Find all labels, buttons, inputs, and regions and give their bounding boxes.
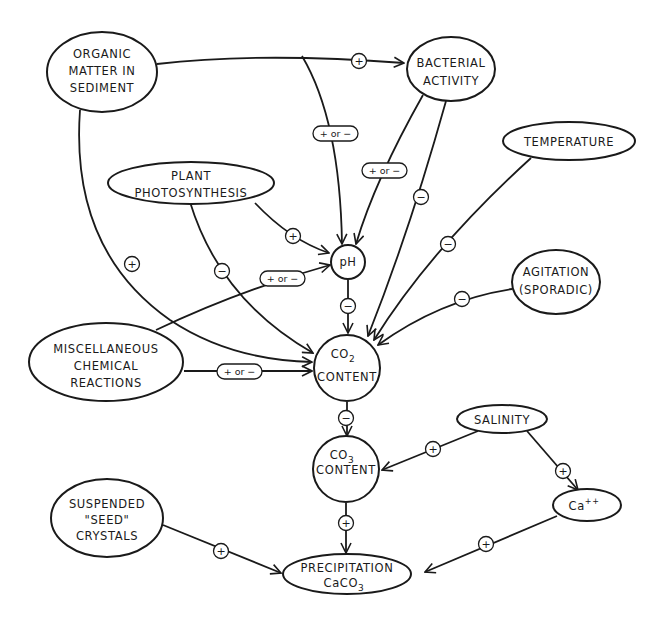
svg-text:+: + bbox=[558, 465, 567, 478]
sign-misc-ph: + or − bbox=[260, 271, 305, 286]
svg-text:CONTENT: CONTENT bbox=[316, 463, 376, 477]
sign-seed-precip: + bbox=[214, 544, 229, 559]
edge-salinity-to-ca bbox=[527, 431, 578, 490]
svg-text:+: + bbox=[288, 230, 297, 243]
svg-text:+ or −: + or − bbox=[320, 128, 352, 139]
sign-co2-co3: − bbox=[339, 411, 354, 426]
nodes: ORGANIC MATTER IN SEDIMENT BACTERIAL ACT… bbox=[29, 32, 635, 594]
sign-organic-co2: + bbox=[125, 257, 140, 272]
svg-text:CRYSTALS: CRYSTALS bbox=[76, 529, 138, 543]
sign-salinity-co3: + bbox=[426, 442, 441, 457]
svg-text:CHEMICAL: CHEMICAL bbox=[74, 359, 138, 373]
svg-text:PHOTOSYNTHESIS: PHOTOSYNTHESIS bbox=[135, 186, 248, 200]
node-bacterial-activity: BACTERIAL ACTIVITY bbox=[407, 37, 495, 101]
svg-text:AGITATION: AGITATION bbox=[523, 265, 590, 279]
svg-text:−: − bbox=[416, 191, 425, 204]
edge-organic-to-ph bbox=[302, 56, 342, 244]
sign-misc-co2: + or − bbox=[217, 364, 262, 379]
sign-plant-co2: − bbox=[215, 264, 230, 279]
sign-co3-precip: + bbox=[339, 516, 354, 531]
svg-text:+: + bbox=[428, 443, 437, 456]
svg-text:CONTENT: CONTENT bbox=[317, 370, 377, 384]
sign-bacterial-co2: − bbox=[414, 190, 429, 205]
svg-text:+: + bbox=[481, 538, 490, 551]
node-plant-photosynthesis: PLANT PHOTOSYNTHESIS bbox=[108, 162, 274, 204]
svg-text:(SPORADIC): (SPORADIC) bbox=[519, 283, 593, 297]
svg-text:REACTIONS: REACTIONS bbox=[70, 376, 142, 390]
node-co3-content: CO3 CONTENT bbox=[313, 436, 379, 502]
node-co2-content: CO2 CONTENT bbox=[314, 335, 380, 401]
node-temperature: TEMPERATURE bbox=[503, 122, 635, 160]
svg-text:−: − bbox=[457, 293, 466, 306]
svg-text:−: − bbox=[443, 238, 452, 251]
svg-text:+: + bbox=[127, 258, 136, 271]
svg-text:−: − bbox=[341, 412, 350, 425]
causal-diagram: + + − − − + − − bbox=[0, 0, 668, 623]
edge-agitation-to-co2 bbox=[378, 289, 512, 345]
sign-bacterial-ph: + or − bbox=[362, 163, 407, 178]
svg-text:SEDIMENT: SEDIMENT bbox=[70, 81, 135, 95]
svg-text:MATTER IN: MATTER IN bbox=[68, 64, 135, 78]
svg-text:−: − bbox=[217, 265, 226, 278]
node-precipitation: PRECIPITATION CaCO3 bbox=[283, 554, 411, 594]
sign-organic-bacterial: + bbox=[352, 54, 367, 69]
edge-bacterial-to-co2 bbox=[368, 101, 446, 336]
svg-text:PRECIPITATION: PRECIPITATION bbox=[301, 561, 394, 575]
node-agitation: AGITATION (SPORADIC) bbox=[512, 250, 600, 314]
sign-plant-ph: + bbox=[286, 229, 301, 244]
sign-organic-ph: + or − bbox=[313, 126, 358, 141]
node-salinity: SALINITY bbox=[457, 405, 547, 433]
svg-text:ACTIVITY: ACTIVITY bbox=[423, 74, 480, 88]
svg-text:+: + bbox=[216, 545, 225, 558]
svg-text:SUSPENDED: SUSPENDED bbox=[69, 497, 145, 511]
node-organic-matter: ORGANIC MATTER IN SEDIMENT bbox=[47, 32, 157, 112]
sign-agitation-co2: − bbox=[455, 292, 470, 307]
node-ph: pH bbox=[331, 245, 365, 279]
sign-temperature-co2: − bbox=[441, 237, 456, 252]
node-calcium: Ca++ bbox=[553, 489, 621, 521]
svg-text:TEMPERATURE: TEMPERATURE bbox=[523, 135, 614, 149]
svg-text:"SEED": "SEED" bbox=[85, 513, 130, 527]
svg-text:−: − bbox=[343, 300, 352, 313]
svg-text:pH: pH bbox=[339, 255, 356, 269]
sign-ph-co2: − bbox=[341, 299, 356, 314]
svg-text:SALINITY: SALINITY bbox=[474, 413, 530, 427]
svg-text:MISCELLANEOUS: MISCELLANEOUS bbox=[53, 342, 158, 356]
svg-text:ORGANIC: ORGANIC bbox=[73, 47, 131, 61]
svg-text:+: + bbox=[354, 55, 363, 68]
svg-text:+ or −: + or − bbox=[224, 366, 256, 377]
svg-text:+: + bbox=[341, 517, 350, 530]
svg-text:+ or −: + or − bbox=[369, 165, 401, 176]
sign-ca-precip: + bbox=[479, 537, 494, 552]
node-seed-crystals: SUSPENDED "SEED" CRYSTALS bbox=[51, 479, 163, 557]
sign-salinity-ca: + bbox=[556, 464, 571, 479]
svg-text:BACTERIAL: BACTERIAL bbox=[417, 56, 486, 70]
svg-text:+ or −: + or − bbox=[267, 273, 299, 284]
svg-text:PLANT: PLANT bbox=[171, 169, 211, 183]
node-misc-chemical-reactions: MISCELLANEOUS CHEMICAL REACTIONS bbox=[29, 323, 183, 401]
